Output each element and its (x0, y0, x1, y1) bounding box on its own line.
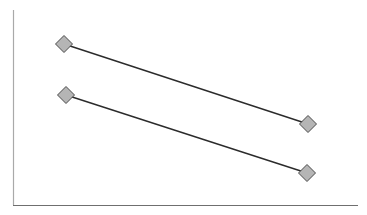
chart-background (0, 0, 367, 215)
line-chart-svg (0, 0, 367, 215)
chart-container: Line chart with two downward sloping ser… (0, 0, 367, 215)
